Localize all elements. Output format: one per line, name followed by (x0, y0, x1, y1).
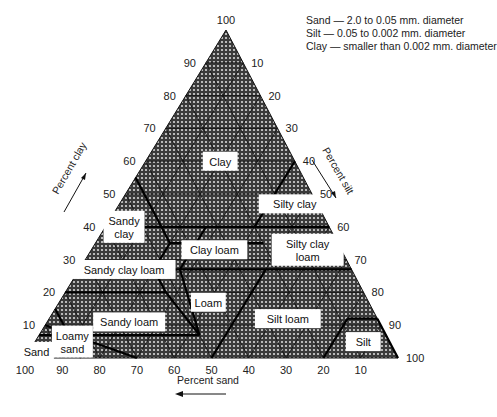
class-label: Clay (209, 156, 232, 168)
legend-sand: Sand — 2.0 to 0.05 mm. diameter (306, 14, 497, 27)
class-sandy-clay: Sandyclay (104, 211, 145, 243)
sand-axis-label: Percent sand (177, 374, 239, 386)
legend-silt: Silt — 0.05 to 0.002 mm. diameter (306, 27, 497, 40)
clay-tick: 40 (83, 221, 95, 233)
silt-tick: 80 (372, 286, 384, 298)
clay-tick: 50 (103, 188, 115, 200)
class-label: Sandy clay loam (84, 264, 165, 276)
clay-tick: 60 (123, 155, 135, 167)
class-label: Sand (24, 346, 50, 358)
sand-tick: 100 (16, 364, 34, 376)
silt-tick: 90 (389, 319, 401, 331)
sand-arrow-head (175, 391, 183, 397)
clay-tick: 70 (143, 122, 155, 134)
class-label: sand (60, 343, 84, 355)
clay-tick: 30 (63, 254, 75, 266)
clay-tick: 80 (164, 90, 176, 102)
clay-tick: 10 (23, 319, 35, 331)
class-label: Silt loam (267, 313, 309, 325)
class-label: Sandy loam (100, 316, 158, 328)
class-sand: Sand (19, 342, 54, 361)
sand-tick: 20 (317, 364, 329, 376)
class-label: Clay loam (190, 244, 239, 256)
class-silt-loam: Silt loam (255, 309, 321, 328)
class-label: loam (296, 251, 320, 263)
silt-tick: 60 (337, 221, 349, 233)
clay-tick: 100 (217, 14, 235, 26)
silt-tick: 100 (406, 352, 424, 364)
silt-tick: 70 (354, 254, 366, 266)
class-sandy-clay-loam: Sandy clay loam (73, 260, 176, 279)
sand-tick: 90 (56, 364, 68, 376)
class-label: Silty clay (273, 198, 317, 210)
class-clay-loam: Clay loam (182, 240, 248, 259)
class-loamy-sand: Loamysand (52, 326, 93, 358)
sand-tick: 30 (280, 364, 292, 376)
class-label: Loam (195, 297, 223, 309)
class-label: Loamy (56, 330, 90, 342)
class-label: Sandy (108, 215, 140, 227)
clay-axis-label: Percent clay (49, 139, 89, 196)
class-label: Silt (356, 336, 371, 348)
legend-clay: Clay — smaller than 0.002 mm. diameter (306, 40, 497, 53)
sand-tick: 10 (355, 364, 367, 376)
sand-tick: 70 (131, 364, 143, 376)
clay-tick: 90 (184, 57, 196, 69)
class-label: Silty clay (286, 238, 330, 250)
class-loam: Loam (191, 293, 226, 312)
silt-tick: 10 (251, 57, 263, 69)
class-silty-clay-loam: Silty clayloam (272, 234, 344, 266)
sand-tick: 40 (243, 364, 255, 376)
class-silt: Silt (346, 332, 381, 351)
class-sandy-loam: Sandy loam (93, 312, 165, 331)
class-clay: Clay (203, 152, 238, 171)
clay-tick: 20 (43, 286, 55, 298)
class-label: clay (114, 228, 134, 240)
clay-arrow-head (81, 173, 86, 180)
sand-tick: 80 (93, 364, 105, 376)
silt-tick: 20 (268, 90, 280, 102)
silt-tick: 30 (286, 122, 298, 134)
legend: Sand — 2.0 to 0.05 mm. diameter Silt — 0… (306, 14, 497, 53)
